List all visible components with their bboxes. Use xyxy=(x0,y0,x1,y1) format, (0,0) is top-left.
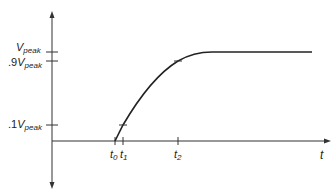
label-t-axis: t xyxy=(320,149,323,161)
label-v10: .1Vpeak xyxy=(8,119,42,132)
y-axis-down-arrow-icon xyxy=(50,182,55,189)
label-v90: .9Vpeak xyxy=(8,57,42,70)
y-axis-up-arrow-icon xyxy=(50,11,55,18)
label-t1: t1 xyxy=(120,149,128,162)
label-t2: t2 xyxy=(174,149,182,162)
x-axis-arrow-icon xyxy=(324,139,331,144)
waveform-curve xyxy=(115,52,312,141)
label-vpeak: Vpeak xyxy=(16,42,41,55)
rise-time-diagram xyxy=(0,0,336,196)
label-t0: t0 xyxy=(110,149,118,162)
